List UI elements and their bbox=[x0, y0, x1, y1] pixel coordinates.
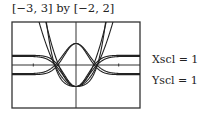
xscl-label: Xscl = 1 bbox=[152, 53, 198, 66]
yscl-label: Yscl = 1 bbox=[152, 74, 198, 87]
